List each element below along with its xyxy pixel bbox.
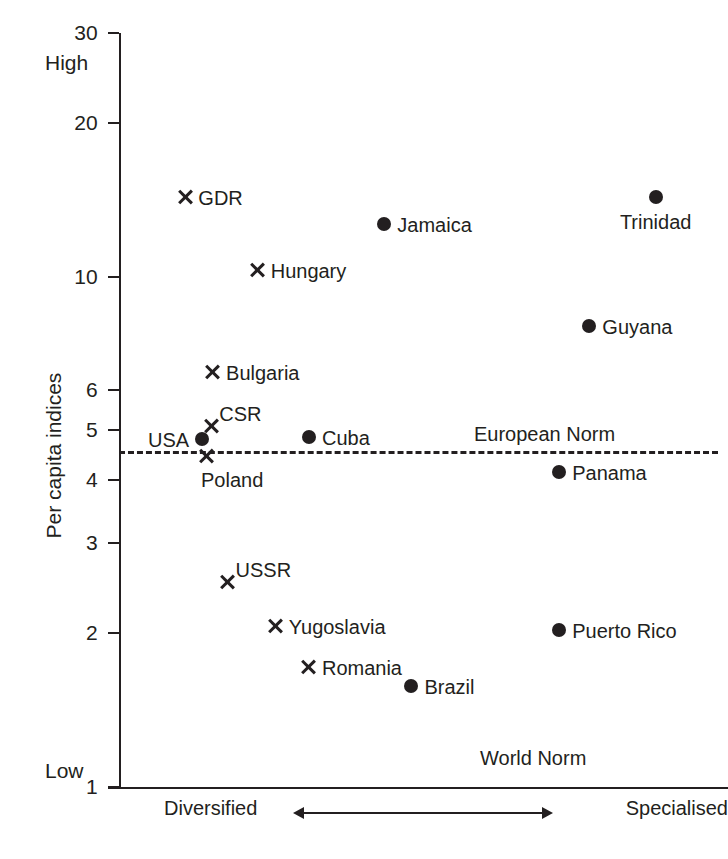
y-axis-tick-label: 30 [74, 22, 98, 43]
double-headed-arrow-icon [293, 807, 553, 819]
cross-marker-icon [300, 658, 318, 676]
x-axis-direction-row: Diversified Specialised [108, 795, 728, 835]
data-point-label: USSR [236, 560, 292, 580]
x-axis-line [108, 787, 728, 789]
y-axis-tick-label: 2 [86, 622, 98, 643]
arrow-shaft [299, 812, 547, 814]
y-axis-tick-label: 5 [86, 419, 98, 440]
data-point-label: Poland [201, 470, 263, 490]
arrow-head-right-icon [542, 807, 553, 819]
y-axis-tick [108, 786, 119, 788]
y-axis-low-label: Low [45, 760, 84, 781]
y-axis-line [119, 33, 121, 788]
data-point-label: Hungary [271, 261, 347, 281]
cross-marker-icon [267, 617, 285, 635]
y-axis-high-label: High [45, 52, 88, 73]
cross-marker-icon [176, 188, 194, 206]
y-axis-tick [108, 632, 119, 634]
y-axis-tick [108, 429, 119, 431]
data-point-label: GDR [198, 188, 242, 208]
cross-marker-icon [249, 261, 267, 279]
y-axis-tick [108, 122, 119, 124]
y-axis-tick [108, 276, 119, 278]
cross-marker-icon [204, 363, 222, 381]
dot-marker-icon [552, 465, 566, 479]
dot-marker-icon [377, 217, 391, 231]
data-point-label: Yugoslavia [289, 617, 386, 637]
dot-marker-icon [302, 430, 316, 444]
y-axis-tick [108, 32, 119, 34]
y-axis-title: Per capita indices [43, 356, 64, 556]
data-point-label: Panama [572, 463, 647, 483]
y-axis-tick-label: 10 [74, 266, 98, 287]
dot-marker-icon [195, 432, 209, 446]
data-point-label: Jamaica [397, 215, 471, 235]
scatter-plot-figure: 302010654321 High Low Per capita indices… [0, 0, 728, 859]
data-point-label: Brazil [424, 677, 474, 697]
y-axis-tick [108, 389, 119, 391]
x-axis-left-label: Diversified [164, 798, 257, 818]
european-norm-label: European Norm [474, 424, 615, 444]
y-axis-tick [108, 479, 119, 481]
dot-marker-icon [649, 190, 663, 204]
data-point-label: Guyana [602, 317, 672, 337]
data-point-label: Puerto Rico [572, 621, 677, 641]
y-axis-tick-label: 6 [86, 379, 98, 400]
cross-marker-icon [198, 447, 216, 465]
data-point-label: CSR [219, 404, 261, 424]
y-axis-tick-label: 4 [86, 469, 98, 490]
data-point-label: Bulgaria [226, 363, 299, 383]
data-point-label: Trinidad [620, 212, 692, 232]
data-point-label: USA [148, 430, 189, 450]
x-axis-right-label: Specialised [626, 798, 728, 818]
data-point-label: Romania [322, 658, 402, 678]
data-point-label: Cuba [322, 428, 370, 448]
world-norm-label: World Norm [480, 748, 586, 768]
y-axis-tick-label: 3 [86, 532, 98, 553]
y-axis-tick-label: 1 [86, 776, 98, 797]
y-axis-tick [108, 542, 119, 544]
dot-marker-icon [582, 319, 596, 333]
dot-marker-icon [404, 679, 418, 693]
y-axis-tick-label: 20 [74, 112, 98, 133]
dot-marker-icon [552, 623, 566, 637]
cross-marker-icon [219, 573, 237, 591]
